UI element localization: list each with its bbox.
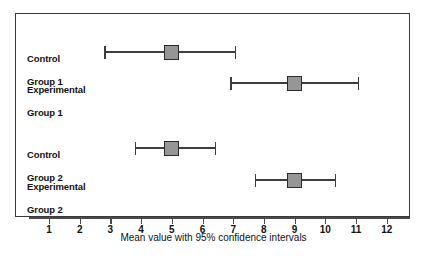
mean-marker: [287, 76, 302, 91]
ci-lower-cap: [255, 174, 257, 187]
x-tick-mark: [295, 219, 296, 224]
errorbar-row: [0, 138, 427, 158]
mean-marker: [164, 141, 179, 156]
x-tick-mark: [264, 219, 265, 224]
x-tick-mark: [356, 219, 357, 224]
ci-upper-cap: [358, 77, 360, 90]
ci-lower-cap: [104, 46, 106, 59]
mean-marker: [287, 173, 302, 188]
x-tick-mark: [233, 219, 234, 224]
ci-upper-cap: [235, 46, 237, 59]
x-tick-mark: [80, 219, 81, 224]
mean-marker: [164, 45, 179, 60]
x-tick-mark: [49, 219, 50, 224]
confidence-interval-chart: Control Group 1 Experimental Group 1 Con…: [0, 0, 427, 257]
x-tick-mark: [203, 219, 204, 224]
errorbar-row: [0, 170, 427, 190]
x-tick-mark: [325, 219, 326, 224]
errorbar-row: [0, 42, 427, 62]
ci-upper-cap: [335, 174, 337, 187]
category-label-line2: Group 1: [27, 107, 63, 118]
x-tick-mark: [110, 219, 111, 224]
ci-lower-cap: [230, 77, 232, 90]
x-tick-mark: [141, 219, 142, 224]
ci-upper-cap: [215, 142, 217, 155]
x-axis-title: Mean value with 95% confidence intervals: [0, 232, 427, 243]
ci-lower-cap: [135, 142, 137, 155]
x-axis-line: [29, 217, 410, 219]
x-tick-mark: [172, 219, 173, 224]
errorbar-row: [0, 73, 427, 93]
category-label-line2: Group 2: [27, 204, 63, 215]
x-tick-mark: [387, 219, 388, 224]
